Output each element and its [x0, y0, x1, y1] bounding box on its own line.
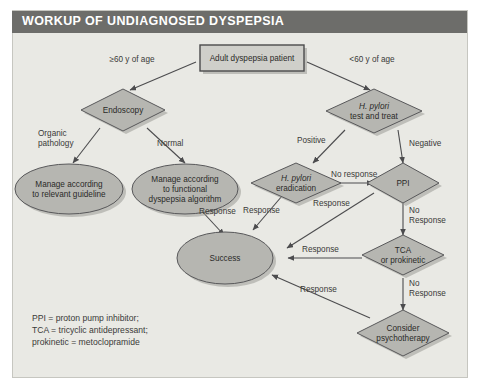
edge-label-response-tca: Response	[302, 245, 339, 254]
edge-label-no-response-tca-line2: Response	[409, 289, 446, 298]
edge-label-negative: Negative	[409, 139, 442, 148]
legend: PPI = proton pump inhibitor; TCA = tricy…	[32, 313, 148, 347]
node-start-label: Adult dyspepsia patient	[210, 54, 295, 63]
figure-root: WORKUP OF UNDIAGNOSED DYSPEPSIA	[0, 0, 480, 392]
edge-hpylori-test-to-ppi	[398, 130, 403, 163]
edge-psychotherapy-to-success	[272, 275, 370, 318]
edge-label-normal: Normal	[157, 139, 184, 148]
edge-label-response-psychotherapy: Response	[300, 285, 337, 294]
edge-label-response-ppi: Response	[313, 199, 350, 208]
node-tca-label-line2: or prokinetic	[381, 256, 426, 265]
node-start[interactable]: Adult dyspepsia patient	[200, 45, 307, 74]
edge-endoscopy-to-manage-guideline	[73, 128, 100, 163]
node-psychotherapy[interactable]: Consider psychotherapy	[357, 310, 452, 359]
node-hpylori-eradication-label-line2: eradication	[276, 184, 317, 193]
node-ppi[interactable]: PPI	[367, 163, 442, 206]
node-success-label: Success	[210, 254, 241, 263]
node-tca[interactable]: TCA or prokinetic	[362, 235, 447, 278]
edge-start-to-hpylori-test	[307, 62, 370, 90]
node-endoscopy-label: Endoscopy	[103, 106, 144, 115]
node-manage-guideline-label-line2: to relevant guideline	[32, 190, 106, 199]
edge-label-organic-pathology-line2: pathology	[38, 139, 74, 148]
edge-hpylori-test-to-eradication	[313, 130, 345, 163]
flowchart-canvas: Adult dyspepsia patient Endoscopy H. pyl…	[0, 0, 480, 392]
edge-label-no-response-ppi-line2: Response	[409, 216, 446, 225]
node-hpylori-test-label-line2: test and treat	[350, 112, 399, 121]
node-endoscopy[interactable]: Endoscopy	[81, 89, 168, 134]
legend-line-3: prokinetic = metoclopramide	[32, 337, 140, 347]
node-success[interactable]: Success	[177, 232, 276, 287]
node-hpylori-test[interactable]: H. pylori test and treat	[326, 89, 425, 136]
edge-start-to-endoscopy	[130, 62, 196, 90]
node-manage-functional-label-line1: Manage according	[151, 175, 219, 184]
edge-label-response-functional: Response	[199, 207, 236, 216]
node-hpylori-eradication-label-line1: H. pylori	[281, 174, 311, 183]
edge-label-positive: Positive	[297, 136, 326, 145]
edge-label-no-response-hpylori: No response	[331, 170, 378, 179]
node-manage-functional-label-line3: dyspepsia algorithm	[149, 195, 222, 204]
edge-label-age-over60: ≥60 y of age	[109, 55, 154, 64]
node-psychotherapy-label-line2: psychotherapy	[376, 334, 430, 343]
node-manage-guideline-label-line1: Manage according	[35, 180, 103, 189]
legend-line-1: PPI = proton pump inhibitor;	[32, 313, 139, 323]
legend-line-2: TCA = tricyclic antidepressant;	[32, 325, 148, 335]
edge-label-age-under60: <60 y of age	[349, 55, 395, 64]
node-manage-functional-label-line2: to functional	[163, 185, 207, 194]
node-tca-label-line1: TCA	[395, 246, 412, 255]
edge-label-no-response-tca-line1: No	[409, 279, 420, 288]
node-hpylori-test-label-line1: H. pylori	[359, 102, 389, 111]
node-manage-guideline[interactable]: Manage according to relevant guideline	[15, 164, 126, 217]
edge-label-no-response-ppi-line1: No	[409, 206, 420, 215]
node-psychotherapy-label-line1: Consider	[387, 324, 420, 333]
node-ppi-label: PPI	[396, 179, 409, 188]
edge-label-response-hpylori: Response	[243, 206, 280, 215]
edge-label-organic-pathology-line1: Organic	[38, 129, 67, 138]
